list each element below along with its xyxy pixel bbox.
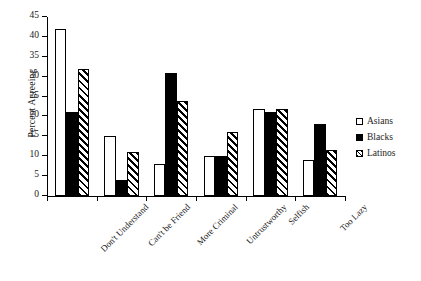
x-category-label: Too Lazy <box>338 202 369 233</box>
bar-latinos-can-t-be-friend <box>127 152 139 196</box>
x-category-label: Don't Understand <box>98 202 150 254</box>
y-tick-label: 40 <box>30 29 40 42</box>
y-tick: 0 <box>42 195 47 196</box>
bar-asians-don-t-understand <box>55 29 67 196</box>
bar-group <box>154 17 189 196</box>
y-tick-label: 10 <box>30 148 40 161</box>
x-tick <box>47 197 48 201</box>
bar-latinos-selfish <box>276 109 288 197</box>
x-tick <box>97 197 98 201</box>
y-tick-label: 20 <box>30 108 40 121</box>
bar-blacks-selfish <box>265 112 277 196</box>
x-category-label: Selfish <box>286 202 311 227</box>
x-category-label: Can't be Friend <box>146 202 192 248</box>
bar-group <box>204 17 239 196</box>
legend-item-asians: Asians <box>356 113 396 129</box>
legend-item-label: Blacks <box>367 132 393 142</box>
legend-item-latinos: Latinos <box>356 145 396 161</box>
legend-item-label: Asians <box>367 116 393 126</box>
bar-group <box>303 17 338 196</box>
bar-group <box>55 17 90 196</box>
y-tick-label: 35 <box>30 49 40 62</box>
bar-asians-untrustworthy <box>204 156 216 196</box>
legend-swatch-icon <box>356 118 363 125</box>
bar-blacks-too-lazy <box>314 124 326 196</box>
bar-asians-selfish <box>253 109 265 197</box>
x-tick <box>295 197 296 201</box>
y-tick: 45 <box>42 16 47 17</box>
bar-blacks-can-t-be-friend <box>116 180 128 196</box>
plot-area: 051015202530354045 <box>47 17 345 196</box>
bar-group <box>104 17 139 196</box>
y-tick-label: 0 <box>34 188 39 201</box>
legend-item-label: Latinos <box>367 148 396 158</box>
bar-blacks-more-criminal <box>165 73 177 196</box>
y-tick-label: 30 <box>30 69 40 82</box>
y-tick: 20 <box>42 115 47 116</box>
bar-blacks-don-t-understand <box>66 112 78 196</box>
bar-asians-can-t-be-friend <box>104 136 116 196</box>
x-category-label: Untrustworthy <box>244 202 288 246</box>
legend-item-blacks: Blacks <box>356 129 396 145</box>
y-tick: 25 <box>42 96 47 97</box>
bar-blacks-untrustworthy <box>215 156 227 196</box>
y-tick: 35 <box>42 56 47 57</box>
y-tick: 30 <box>42 76 47 77</box>
y-tick-label: 45 <box>30 9 40 22</box>
bar-group <box>253 17 288 196</box>
y-tick-label: 15 <box>30 128 40 141</box>
y-tick: 5 <box>42 175 47 176</box>
y-axis-line <box>47 17 48 197</box>
bar-chart: Percent Agreeing 051015202530354045 Don'… <box>0 0 421 281</box>
bar-latinos-too-lazy <box>326 150 338 196</box>
x-tick <box>246 197 247 201</box>
legend-swatch-icon <box>356 134 363 141</box>
y-tick: 40 <box>42 36 47 37</box>
bar-latinos-untrustworthy <box>227 132 239 196</box>
chart-legend: AsiansBlacksLatinos <box>356 113 396 161</box>
y-tick: 10 <box>42 155 47 156</box>
bar-latinos-more-criminal <box>177 101 189 196</box>
y-tick: 15 <box>42 135 47 136</box>
x-tick <box>146 197 147 201</box>
x-tick <box>345 197 346 201</box>
y-tick-label: 5 <box>34 168 39 181</box>
legend-swatch-icon <box>356 150 363 157</box>
y-tick-label: 25 <box>30 89 40 102</box>
x-category-label: More Criminal <box>195 202 240 247</box>
bar-latinos-don-t-understand <box>78 69 90 196</box>
bar-asians-too-lazy <box>303 160 315 196</box>
x-tick <box>196 197 197 201</box>
bar-asians-more-criminal <box>154 164 166 196</box>
